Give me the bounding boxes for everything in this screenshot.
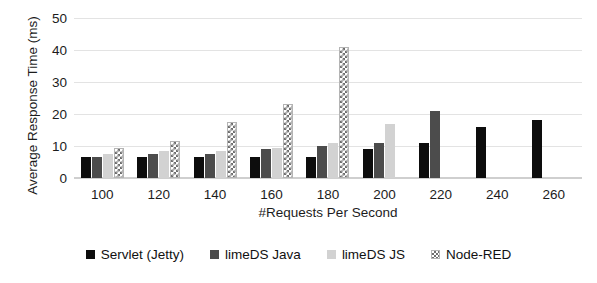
- legend-item[interactable]: limeDS JS: [327, 247, 405, 262]
- bar-limejs: [272, 148, 282, 178]
- bar-chart: Average Response Time (ms) 50403020100 1…: [0, 0, 597, 283]
- x-axis-tick-label: 140: [187, 187, 243, 202]
- bar-groups: 100120140160180200220240260: [74, 18, 582, 178]
- bar-limejava: [374, 143, 384, 178]
- bar-group: 220: [413, 18, 469, 178]
- bar-group: 120: [130, 18, 186, 178]
- bar-nodered: [170, 141, 180, 178]
- bar-servlet: [532, 120, 542, 178]
- x-axis-tick-label: 240: [469, 187, 525, 202]
- bar-servlet: [250, 157, 260, 178]
- bar-servlet: [137, 157, 147, 178]
- legend-item[interactable]: limeDS Java: [210, 247, 301, 262]
- bar-group: 160: [243, 18, 299, 178]
- legend-swatch-servlet-icon: [86, 250, 95, 259]
- legend-item[interactable]: Node-RED: [431, 247, 511, 262]
- bar-nodered: [283, 104, 293, 178]
- bar-servlet: [476, 127, 486, 178]
- bar-limejava: [261, 149, 271, 178]
- bar-limejava: [92, 157, 102, 178]
- y-axis-tick-label: 40: [52, 43, 67, 58]
- bar-group: 180: [300, 18, 356, 178]
- bar-servlet: [306, 157, 316, 178]
- x-axis-tick-label: 200: [356, 187, 412, 202]
- bar-limejs: [159, 151, 169, 178]
- bar-servlet: [81, 157, 91, 178]
- bar-servlet: [419, 143, 429, 178]
- bar-limejs: [328, 143, 338, 178]
- bar-group: 240: [469, 18, 525, 178]
- bar-servlet: [194, 157, 204, 178]
- y-axis-title: Average Response Time (ms): [25, 11, 40, 201]
- y-axis-tick-label: 20: [52, 107, 67, 122]
- gridline: [74, 178, 582, 179]
- x-axis-tick-label: 160: [243, 187, 299, 202]
- bar-group: 260: [526, 18, 582, 178]
- bar-group-bars: [74, 18, 130, 178]
- plot-area: 50403020100 100120140160180200220240260: [74, 18, 582, 178]
- bar-group-bars: [187, 18, 243, 178]
- legend-swatch-limejs-icon: [327, 250, 336, 259]
- bar-group-bars: [243, 18, 299, 178]
- legend-label: limeDS JS: [342, 247, 405, 262]
- bar-group-bars: [356, 18, 412, 178]
- bar-limejava: [317, 146, 327, 178]
- bar-group-bars: [300, 18, 356, 178]
- legend-label: limeDS Java: [225, 247, 301, 262]
- clipped-header-text: [0, 0, 597, 5]
- bar-limejs: [385, 124, 395, 178]
- bar-nodered: [339, 47, 349, 178]
- y-axis-tick-label: 50: [52, 11, 67, 26]
- x-axis-tick-label: 120: [130, 187, 186, 202]
- bar-group-bars: [526, 18, 582, 178]
- bar-limejava: [205, 154, 215, 178]
- bar-group-bars: [469, 18, 525, 178]
- bar-nodered: [227, 122, 237, 178]
- bar-limejava: [430, 111, 440, 178]
- bar-limejs: [216, 151, 226, 178]
- bar-group-bars: [130, 18, 186, 178]
- legend-label: Node-RED: [446, 247, 511, 262]
- bar-limejava: [148, 154, 158, 178]
- bar-group: 100: [74, 18, 130, 178]
- y-axis-tick-label: 30: [52, 75, 67, 90]
- chart-legend: Servlet (Jetty)limeDS JavalimeDS JSNode-…: [0, 247, 597, 262]
- bar-group-bars: [413, 18, 469, 178]
- legend-swatch-limejava-icon: [210, 250, 219, 259]
- legend-item[interactable]: Servlet (Jetty): [86, 247, 184, 262]
- legend-swatch-nodered-icon: [431, 250, 440, 259]
- y-axis-tick-label: 0: [59, 171, 67, 186]
- x-axis-tick-label: 100: [74, 187, 130, 202]
- bar-group: 140: [187, 18, 243, 178]
- x-axis-title: #Requests Per Second: [74, 205, 582, 220]
- y-axis-tick-label: 10: [52, 139, 67, 154]
- legend-label: Servlet (Jetty): [101, 247, 184, 262]
- x-axis-tick-label: 220: [413, 187, 469, 202]
- bar-servlet: [363, 149, 373, 178]
- bar-nodered: [114, 148, 124, 178]
- bar-group: 200: [356, 18, 412, 178]
- x-axis-tick-label: 260: [526, 187, 582, 202]
- bar-limejs: [103, 154, 113, 178]
- x-axis-tick-label: 180: [300, 187, 356, 202]
